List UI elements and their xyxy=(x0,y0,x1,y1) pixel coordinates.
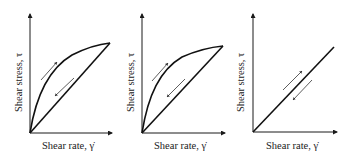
y-axis-label: Shear stress, τ xyxy=(13,53,24,112)
x-axis-label: Shear rate, γ̇ xyxy=(42,140,95,151)
linear-curve xyxy=(253,47,334,132)
panel-3: Shear rate, γ̇ Shear stress, τ xyxy=(235,14,337,151)
x-axis-label: Shear rate, γ̇ xyxy=(266,140,319,151)
down-arrow-icon xyxy=(293,80,312,100)
up-arrow-icon xyxy=(283,71,302,90)
panel-1: Shear rate, γ̇ Shear stress, τ xyxy=(13,14,112,151)
y-axis-label: Shear stress, τ xyxy=(235,53,246,112)
x-axis-label: Shear rate, γ̇ xyxy=(154,140,207,151)
rheology-diagram: Shear rate, γ̇ Shear stress, τ Shear rat… xyxy=(0,0,345,158)
down-arrow-icon xyxy=(167,79,185,97)
panel-2: Shear rate, γ̇ Shear stress, τ xyxy=(125,14,225,151)
y-axis-label: Shear stress, τ xyxy=(125,53,136,112)
